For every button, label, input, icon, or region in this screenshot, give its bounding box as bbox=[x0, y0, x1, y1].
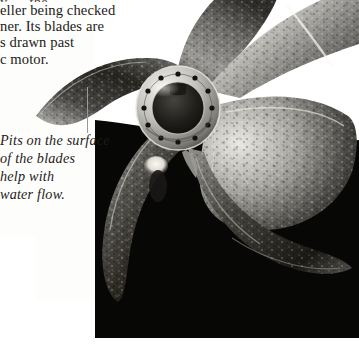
body-text-line: ner. Its blades are bbox=[0, 18, 150, 34]
body-text-block: y … the … eller being checked ner. Its b… bbox=[0, 0, 150, 67]
body-text-line: s drawn past bbox=[0, 34, 150, 50]
propeller-hub bbox=[136, 66, 220, 150]
caption-line: Pits on the surface bbox=[0, 131, 140, 149]
book-page: y … the … eller being checked ner. Its b… bbox=[0, 0, 359, 350]
body-text-line: eller being checked bbox=[0, 2, 150, 18]
caption-line: help with bbox=[0, 167, 140, 185]
caption-leader-line bbox=[87, 87, 88, 133]
body-text-line: c motor. bbox=[0, 51, 150, 67]
caption-line: water flow. bbox=[0, 185, 140, 203]
photo-caption: Pits on the surface of the blades help w… bbox=[0, 131, 140, 203]
caption-line: of the blades bbox=[0, 149, 140, 167]
